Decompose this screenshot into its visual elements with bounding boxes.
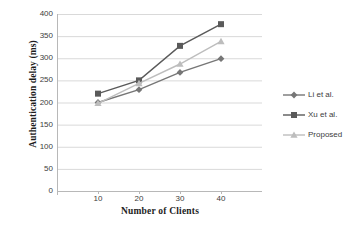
series-proposed — [94, 38, 224, 106]
data-point-marker-triangle — [176, 60, 183, 66]
legend-label: Li et al. — [308, 90, 334, 99]
chart-legend: Li et al.Xu et al.Proposed — [282, 88, 357, 148]
data-point-marker-diamond — [291, 92, 298, 99]
legend-item-proposed[interactable]: Proposed — [282, 128, 357, 148]
x-axis-title: Number of Clients — [57, 206, 263, 216]
x-axis-tick-label: 10 — [83, 194, 113, 203]
data-point-marker-square — [291, 112, 297, 118]
data-point-marker-diamond — [218, 55, 225, 62]
authentication-delay-chart: Authentication delay (ms) 40035030025020… — [0, 0, 357, 232]
legend-item-li-et-al[interactable]: Li et al. — [282, 88, 357, 108]
legend-swatch-square-icon — [282, 108, 306, 122]
data-point-marker-square — [177, 43, 183, 49]
data-point-marker-square — [218, 21, 224, 27]
legend-label: Proposed — [308, 130, 342, 139]
series-line — [98, 41, 221, 103]
x-axis-tick-label: 30 — [165, 194, 195, 203]
x-axis-tick-label: 20 — [124, 194, 154, 203]
data-series-layer — [94, 21, 224, 106]
legend-swatch-diamond-icon — [282, 88, 306, 102]
legend-label: Xu et al. — [308, 110, 337, 119]
legend-item-xu-et-al[interactable]: Xu et al. — [282, 108, 357, 128]
x-axis-tick-label: 40 — [206, 194, 236, 203]
data-point-marker-square — [95, 91, 101, 97]
legend-swatch-triangle-icon — [282, 128, 306, 142]
axis-lines — [58, 14, 222, 195]
data-point-marker-triangle — [217, 38, 224, 44]
data-point-marker-diamond — [177, 69, 184, 76]
data-point-marker-diamond — [136, 86, 143, 93]
x-axis-tick-labels: 10203040 — [0, 194, 357, 206]
gridlines — [57, 15, 262, 192]
